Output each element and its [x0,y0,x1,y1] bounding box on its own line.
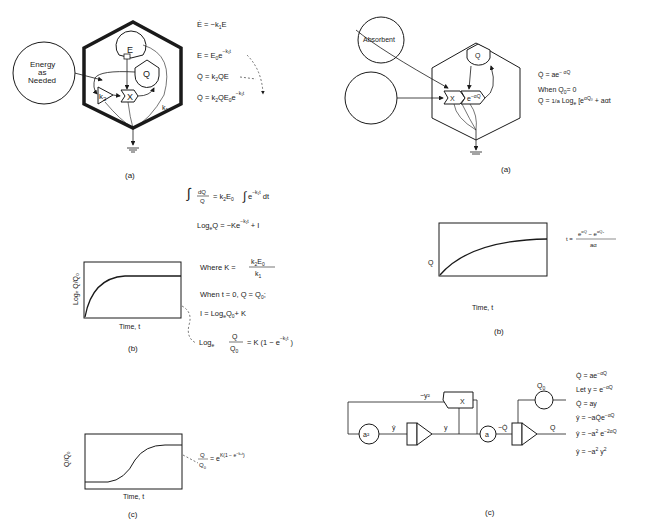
svg-text:ẏ = −aQ̇e−αQ: ẏ = −aQ̇e−αQ [576,412,615,422]
svg-text:−Q̇: −Q̇ [498,424,508,432]
svg-text:eαQ − eαQ₀: eαQ − eαQ₀ [578,229,604,237]
svg-text:k1: k1 [255,270,262,279]
svg-text:a²: a² [363,431,370,438]
svg-text:Q: Q [200,452,205,458]
svg-text:∫: ∫ [186,185,192,201]
energy-source-circle [345,72,397,124]
caption-right-b: (b) [494,327,504,336]
ylabel-c: Q/Q₀ [63,451,71,467]
switch-square [124,54,130,59]
integrator-2 [512,423,522,445]
initial-condition-Q0 [535,391,553,409]
svg-text:I = LogeQ0+ K: I = LogeQ0+ K [200,309,246,319]
left-panel-b-plot: Logₑ Q/Q₀ Time, t (b) [72,262,196,353]
svg-text:When t = 0, Q = Q0;: When t = 0, Q = Q0; [200,290,266,300]
svg-text:Q: Q [200,198,205,204]
svg-text:aα: aα [590,242,597,248]
svg-text:Let y = e−αQ: Let y = e−αQ [576,384,613,394]
svg-text:−y²: −y² [420,392,431,400]
figure-canvas: E Q k2 X k1 Energy as Needed [0,0,658,524]
svg-text:Where K =: Where K = [200,263,236,272]
svg-text:Q̇ = ay: Q̇ = ay [576,400,597,408]
right-panel-b-plot: Q Time, t (b) t = eαQ − eαQ₀ aα [428,223,616,336]
svg-text:Q̇ = ae− αQ: Q̇ = ae− αQ [538,69,570,79]
svg-text:y: y [444,424,448,432]
svg-text:Q̇ = k2QE: Q̇ = k2QE [197,72,229,82]
caption-left-b: (b) [128,344,138,353]
right-a-equations: Q̇ = ae− αQ When Q0= 0 Q = 1/a Loge [eαQ… [538,69,611,106]
right-c-equations: Q̇ = ae−αQ Let y = e−αQ Q̇ = ay ẏ = −aQ̇… [576,370,617,456]
svg-text:Ė = −k1E: Ė = −k1E [197,20,226,30]
xlabel-b: Time, t [119,323,140,330]
left-panel-a: E Q k2 X k1 Energy as Needed [13,20,263,180]
svg-text:Loge: Loge [199,338,215,348]
caption-left-a: (a) [125,171,135,180]
right-panel-c-diagram: X −y² a² ẏ y a −Q̇ Q Q0 Q̇ = ae−αQ Let y… [348,370,617,517]
xlabel-c: Time, t [123,493,144,500]
heat-sink-ground-icon [470,152,482,154]
svg-text:ẏ = −a2 y2: ẏ = −a2 y2 [576,446,607,456]
multiplier-X [443,392,473,408]
svg-text:Needed: Needed [28,76,56,85]
caption-right-c: (c) [485,508,495,517]
ylabel-rb: Q [428,259,434,267]
svg-text:Q0: Q0 [199,462,207,470]
svg-text:X: X [450,95,455,102]
svg-text:∫: ∫ [242,189,247,203]
svg-text:= k2E0: = k2E0 [213,192,234,202]
svg-text:Q̇ = k2QE0e−k₁t: Q̇ = k2QE0e−k₁t [197,90,245,103]
svg-text:Q̇ = ae−αQ: Q̇ = ae−αQ [576,370,607,380]
svg-text:Q0: Q0 [537,382,545,391]
svg-text:e−k₁t dt: e−k₁t dt [248,189,270,201]
svg-text:X: X [460,398,465,405]
left-panel-c-plot: Q/Q₀ Time, t (c) Q Q0 = eK(1 − e−k₁t) [63,434,245,519]
svg-text:a: a [485,431,489,438]
left-derivation: ∫ dQ Q = k2E0 ∫ e−k₁t dt LogeQ = −Ke−k₁t… [186,185,294,354]
svg-text:k2E0: k2E0 [251,258,265,267]
svg-text:E = E0e−k₁t: E = E0e−k₁t [197,48,232,61]
tank-E-label: E [127,45,133,55]
svg-text:Q0: Q0 [230,345,238,354]
curve-sigmoid [85,445,182,482]
caption-right-a: (a) [501,165,511,174]
svg-text:Q: Q [550,424,556,432]
multiplier-label: X [127,92,133,102]
svg-text:= K (1 − e−k₁t ): = K (1 − e−k₁t ) [247,335,294,347]
left-a-equations: Ė = −k1E E = E0e−k₁t Q̇ = k2QE Q̇ = k2QE… [197,20,263,103]
svg-text:= eK(1 − e−k₁t): = eK(1 − e−k₁t) [210,451,245,462]
svg-text:dQ: dQ [198,189,206,195]
svg-text:ẏ: ẏ [392,424,396,432]
svg-text:When Q0= 0: When Q0= 0 [538,86,577,95]
heat-sink-ground-icon [127,148,139,152]
svg-text:ẏ = −a2 e−2αQ: ẏ = −a2 e−2αQ [576,428,617,438]
curve-log-ratio [85,276,181,317]
svg-text:LogeQ = −Ke−k₁t + I: LogeQ = −Ke−k₁t + I [197,218,259,231]
ylabel-b: Logₑ Q/Q₀ [72,273,80,305]
curve-log-growth [440,239,547,275]
svg-text:Q: Q [475,52,481,60]
tank-Q-label: Q [143,69,150,79]
caption-left-c: (c) [128,510,138,519]
integrator-1 [407,423,417,445]
svg-text:Q = 1/a Loge [eαQ₀ + aαt: Q = 1/a Loge [eαQ₀ + aαt [538,95,611,106]
right-panel-a: Absorbent Q X e−αQ Q̇ = ae− αQ When Q0= … [345,17,611,174]
svg-text:t =: t = [566,236,573,242]
xlabel-rb: Time, t [472,304,493,311]
svg-text:Q: Q [232,333,238,341]
